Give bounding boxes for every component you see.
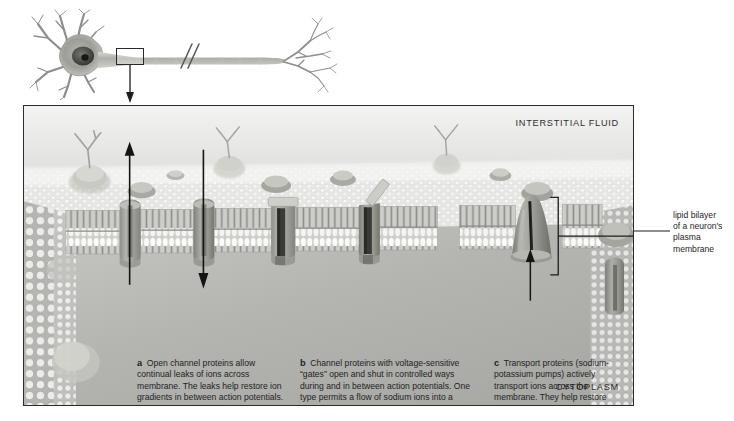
caption-c: c Transport proteins (sodium-potassium p…: [494, 358, 616, 406]
bilayer-segment-1: [66, 210, 120, 254]
bilayer-segment-6: [460, 205, 516, 249]
caption-a-marker: a: [137, 358, 147, 368]
callout-arrow-icon: [123, 65, 137, 103]
membrane-detail-callout-box: [116, 48, 144, 65]
neuron-svg: [26, 8, 356, 100]
bilayer-segment-4: [295, 207, 359, 251]
neuron-overview-illustration: [26, 8, 356, 100]
bilayer-segment-7: [562, 204, 602, 248]
channel-gate-lid-closed: [268, 197, 298, 206]
bilayer-segment-2: [141, 209, 194, 253]
caption-c-marker: c: [494, 358, 504, 368]
lipid-bilayer-label-line-1: lipid bilayer: [673, 210, 734, 221]
caption-b: b Channel proteins with voltage-sensitiv…: [300, 358, 480, 406]
bilayer-segment-3: [213, 208, 271, 252]
lipid-bilayer-label-line-2: of a neuron's: [673, 221, 734, 232]
lipid-bilayer-label-line-4: membrane: [673, 244, 734, 255]
voltage-gated-channel-closed: [268, 197, 298, 265]
caption-b-text: Channel proteins with voltage-sensitive …: [300, 358, 470, 406]
caption-b-marker: b: [300, 358, 310, 368]
bilayer-label-leader-line: [600, 200, 680, 260]
nucleolus: [81, 54, 88, 60]
caption-a: a Open channel proteins allow continual …: [137, 358, 287, 404]
cytoplasm-vesicle-2: [47, 257, 77, 283]
bilayer-segment-5: [380, 206, 438, 250]
caption-a-text: Open channel proteins allow continual le…: [137, 358, 283, 402]
lipid-bilayer-label: lipid bilayer of a neuron's plasma membr…: [673, 210, 734, 255]
membrane-figure: INTERSTITIAL FLUID CYTOPLASM a Open chan…: [0, 0, 734, 421]
interstitial-fluid-label: INTERSTITIAL FLUID: [515, 118, 619, 128]
lipid-bilayer-label-line-3: plasma: [673, 232, 734, 243]
caption-c-text: Transport proteins (sodium-potassium pum…: [494, 358, 614, 406]
membrane-detail-panel: INTERSTITIAL FLUID CYTOPLASM a Open chan…: [23, 105, 634, 406]
axon-terminal-branches: [284, 18, 337, 92]
